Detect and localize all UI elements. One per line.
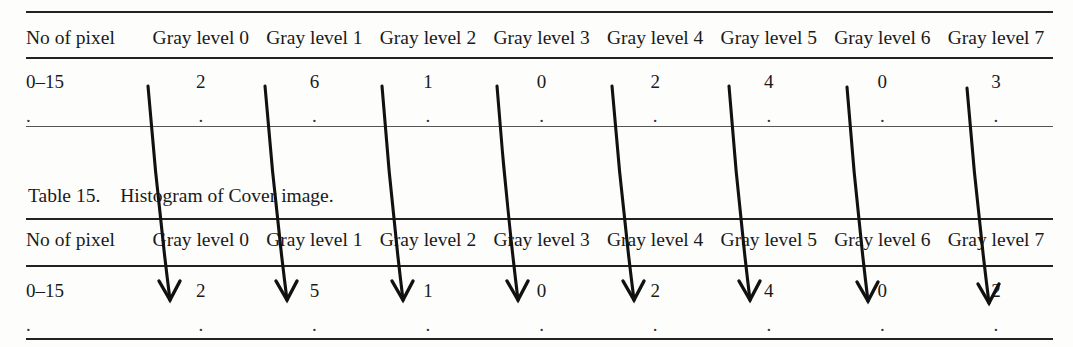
lower-value-gray-level-2: 1: [371, 281, 485, 300]
upper-header-gray-level-3: Gray level 3: [485, 28, 599, 48]
lower-table-header-rule: [26, 265, 1053, 267]
scanned-page: No of pixel Gray level 0 Gray level 1 Gr…: [0, 0, 1073, 347]
lower-table-top-rule: [26, 218, 1053, 220]
caption-number: Table 15.: [28, 185, 100, 206]
lower-ellipsis-gray-level-5: .: [712, 315, 826, 334]
upper-header-gray-level-1: Gray level 1: [258, 28, 372, 48]
lower-value-gray-level-6: 0: [826, 281, 940, 300]
lower-table-ellipsis-row: . . . . . . . . .: [26, 315, 1053, 334]
lower-value-gray-level-4: 2: [598, 281, 712, 300]
upper-ellipsis-gray-level-6: .: [826, 106, 940, 125]
lower-table-header-row: No of pixel Gray level 0 Gray level 1 Gr…: [26, 230, 1053, 250]
lower-table-bottom-rule: [26, 338, 1053, 340]
lower-header-gray-level-5: Gray level 5: [712, 230, 826, 250]
upper-table-header-rule: [26, 57, 1053, 59]
upper-value-gray-level-3: 0: [485, 72, 599, 91]
upper-value-gray-level-0: 2: [144, 72, 258, 91]
lower-ellipsis-gray-level-4: .: [598, 315, 712, 334]
upper-value-gray-level-7: 3: [939, 72, 1053, 91]
upper-table-ellipsis-row: . . . . . . . . .: [26, 106, 1053, 125]
lower-header-gray-level-1: Gray level 1: [258, 230, 372, 250]
upper-table-data-row: 0–15 2 6 1 0 2 4 0 3: [26, 72, 1053, 91]
upper-table-bottom-rule: [26, 126, 1053, 127]
lower-header-gray-level-4: Gray level 4: [598, 230, 712, 250]
upper-header-gray-level-2: Gray level 2: [371, 28, 485, 48]
upper-header-gray-level-6: Gray level 6: [826, 28, 940, 48]
upper-ellipsis-gray-level-2: .: [371, 106, 485, 125]
upper-header-gray-level-4: Gray level 4: [598, 28, 712, 48]
lower-value-gray-level-3: 0: [485, 281, 599, 300]
upper-value-gray-level-4: 2: [598, 72, 712, 91]
lower-header-gray-level-3: Gray level 3: [485, 230, 599, 250]
upper-header-gray-level-5: Gray level 5: [712, 28, 826, 48]
upper-ellipsis-gray-level-7: .: [939, 106, 1053, 125]
lower-header-gray-level-7: Gray level 7: [939, 230, 1053, 250]
lower-ellipsis-gray-level-0: .: [144, 315, 258, 334]
lower-ellipsis-gray-level-7: .: [939, 315, 1053, 334]
lower-ellipsis-gray-level-1: .: [258, 315, 372, 334]
lower-table-data-row: 0–15 2 5 1 0 2 4 0 2: [26, 281, 1053, 300]
lower-value-gray-level-5: 4: [712, 281, 826, 300]
upper-value-gray-level-6: 0: [826, 72, 940, 91]
lower-header-gray-level-2: Gray level 2: [371, 230, 485, 250]
upper-ellipsis-gray-level-4: .: [598, 106, 712, 125]
lower-ellipsis-gray-level-6: .: [826, 315, 940, 334]
upper-ellipsis-gray-level-0: .: [144, 106, 258, 125]
upper-ellipsis-label: .: [26, 106, 144, 125]
upper-value-gray-level-2: 1: [371, 72, 485, 91]
upper-ellipsis-gray-level-3: .: [485, 106, 599, 125]
lower-value-gray-level-7: 2: [939, 281, 1053, 300]
lower-value-gray-level-1: 5: [258, 281, 372, 300]
upper-value-gray-level-5: 4: [712, 72, 826, 91]
upper-value-gray-level-1: 6: [258, 72, 372, 91]
table-caption: Table 15.Histogram of Cover image.: [28, 186, 334, 206]
upper-ellipsis-gray-level-1: .: [258, 106, 372, 125]
lower-ellipsis-gray-level-2: .: [371, 315, 485, 334]
upper-table-top-rule: [26, 11, 1053, 13]
caption-text: Histogram of Cover image.: [120, 185, 333, 206]
lower-value-gray-level-0: 2: [144, 281, 258, 300]
lower-header-gray-level-6: Gray level 6: [826, 230, 940, 250]
upper-table-header-row: No of pixel Gray level 0 Gray level 1 Gr…: [26, 28, 1053, 48]
upper-header-gray-level-0: Gray level 0: [144, 28, 258, 48]
lower-row-label: 0–15: [26, 281, 144, 300]
lower-header-gray-level-0: Gray level 0: [144, 230, 258, 250]
upper-header-no-of-pixel: No of pixel: [26, 28, 144, 48]
upper-row-label: 0–15: [26, 72, 144, 91]
lower-header-no-of-pixel: No of pixel: [26, 230, 144, 250]
lower-ellipsis-gray-level-3: .: [485, 315, 599, 334]
upper-header-gray-level-7: Gray level 7: [939, 28, 1053, 48]
upper-ellipsis-gray-level-5: .: [712, 106, 826, 125]
lower-ellipsis-label: .: [26, 315, 144, 334]
